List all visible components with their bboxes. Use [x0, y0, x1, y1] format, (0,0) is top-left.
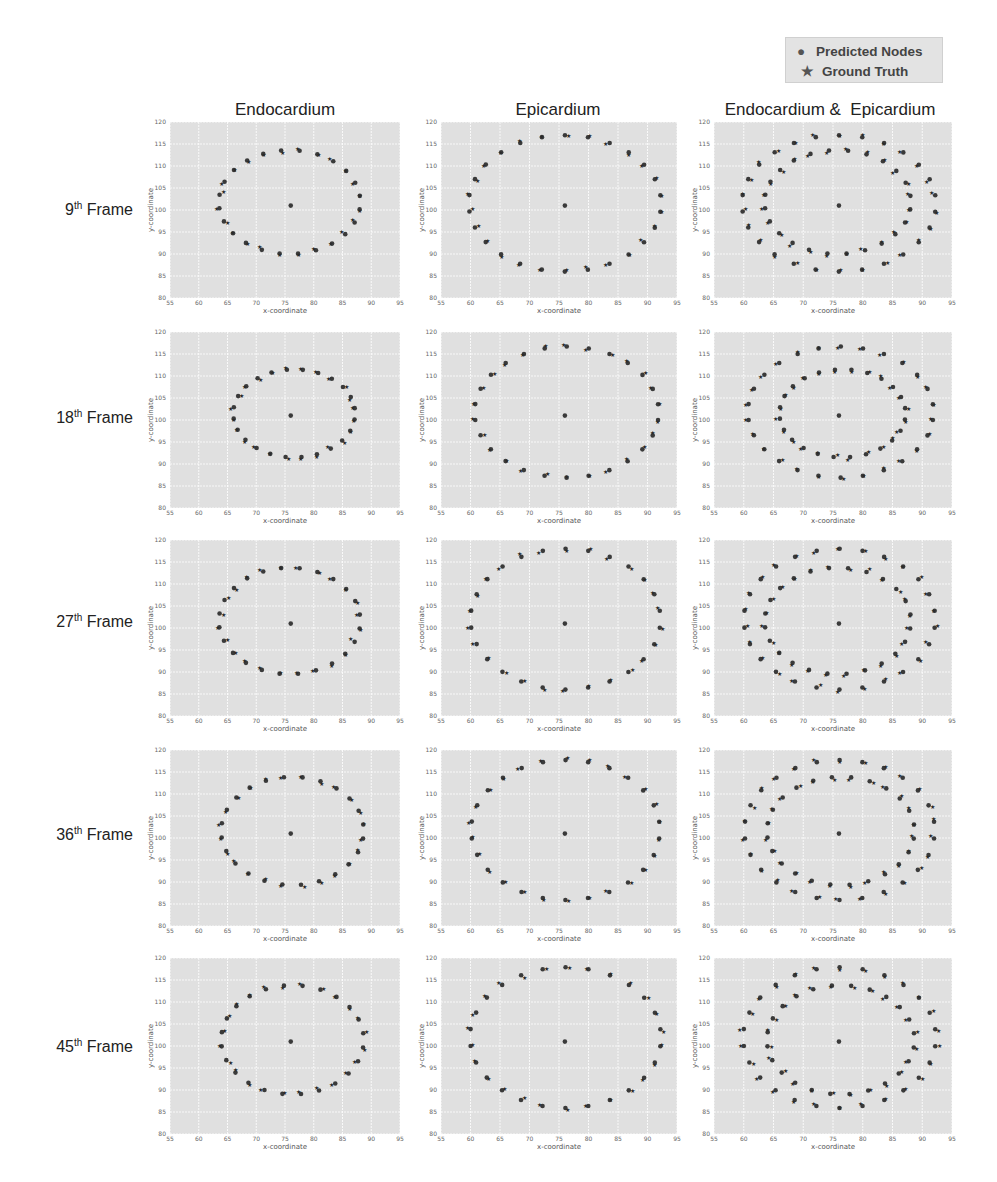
ground-truth-star: ★	[294, 670, 299, 676]
ground-truth-star: ★	[354, 612, 359, 618]
ground-truth-star: ★	[808, 249, 813, 255]
ground-truth-star: ★	[355, 1015, 360, 1021]
ground-truth-star: ★	[319, 781, 324, 787]
ground-truth-star: ★	[470, 1042, 475, 1048]
center-node	[563, 621, 568, 626]
star-marker-icon: ★	[792, 63, 822, 79]
ground-truth-star: ★	[296, 1089, 301, 1095]
ground-truth-star: ★	[473, 804, 478, 810]
ground-truth-star: ★	[901, 359, 906, 365]
ground-truth-star: ★	[267, 451, 272, 457]
x-axis-label: x-coordinate	[263, 517, 307, 525]
ground-truth-star: ★	[914, 1046, 919, 1052]
ground-truth-star: ★	[343, 652, 348, 658]
svg-text:85: 85	[702, 482, 710, 489]
ground-truth-star: ★	[603, 888, 608, 894]
ground-truth-star: ★	[890, 435, 895, 441]
ground-truth-star: ★	[915, 1029, 920, 1035]
svg-text:85: 85	[339, 299, 347, 306]
ground-truth-star: ★	[881, 465, 886, 471]
svg-text:85: 85	[429, 482, 437, 489]
svg-text:105: 105	[426, 602, 438, 609]
svg-text:105: 105	[155, 602, 167, 609]
svg-text:110: 110	[699, 580, 711, 587]
svg-text:90: 90	[644, 1135, 652, 1142]
ground-truth-star: ★	[779, 232, 784, 238]
ground-truth-star: ★	[652, 853, 657, 859]
ground-truth-star: ★	[867, 369, 872, 375]
ground-truth-star: ★	[565, 755, 570, 761]
svg-text:80: 80	[429, 712, 437, 719]
svg-text:120: 120	[426, 536, 438, 543]
svg-text:70: 70	[799, 509, 807, 516]
ground-truth-star: ★	[465, 1025, 470, 1031]
ground-truth-star: ★	[239, 393, 244, 399]
ground-truth-star: ★	[879, 577, 884, 583]
ground-truth-star: ★	[537, 1102, 542, 1108]
svg-text:75: 75	[281, 1135, 289, 1142]
ground-truth-star: ★	[221, 612, 226, 618]
y-axis-label: y-coordinate	[147, 606, 155, 650]
ground-truth-star: ★	[817, 894, 822, 900]
ground-truth-star: ★	[295, 146, 300, 152]
ground-truth-star: ★	[629, 880, 634, 886]
ground-truth-star: ★	[789, 888, 794, 894]
ground-truth-star: ★	[858, 1101, 863, 1107]
svg-text:105: 105	[426, 184, 438, 191]
ground-truth-star: ★	[761, 446, 766, 452]
ground-truth-star: ★	[776, 148, 781, 154]
svg-text:90: 90	[429, 668, 437, 675]
ground-truth-star: ★	[584, 966, 589, 972]
ground-truth-star: ★	[759, 206, 764, 212]
svg-text:55: 55	[710, 509, 718, 516]
ground-truth-star: ★	[364, 1029, 369, 1035]
ground-truth-star: ★	[896, 863, 901, 869]
ground-truth-star: ★	[877, 352, 882, 358]
ground-truth-star: ★	[790, 1081, 795, 1087]
svg-text:120: 120	[699, 328, 711, 335]
ground-truth-star: ★	[761, 192, 766, 198]
ground-truth-star: ★	[332, 994, 337, 1000]
svg-text:95: 95	[673, 717, 681, 724]
ground-truth-star: ★	[775, 877, 780, 883]
ground-truth-star: ★	[347, 861, 352, 867]
ground-truth-star: ★	[904, 625, 909, 631]
svg-text:90: 90	[158, 878, 166, 885]
svg-text:80: 80	[158, 504, 166, 511]
svg-text:120: 120	[426, 954, 438, 961]
ground-truth-star: ★	[343, 168, 348, 174]
legend-item-ground-truth: ★ Ground Truth	[792, 61, 908, 81]
svg-text:100: 100	[426, 624, 438, 631]
svg-text:70: 70	[252, 1135, 260, 1142]
center-node	[563, 413, 568, 418]
svg-text:75: 75	[555, 927, 563, 934]
ground-truth-star: ★	[861, 667, 866, 673]
ground-truth-star: ★	[759, 785, 764, 791]
ground-truth-star: ★	[626, 152, 631, 158]
svg-text:65: 65	[224, 299, 232, 306]
y-axis-label: y-coordinate	[147, 188, 155, 232]
svg-text:60: 60	[467, 1135, 475, 1142]
ground-truth-star: ★	[923, 591, 928, 597]
ground-truth-star: ★	[503, 879, 508, 885]
svg-text:115: 115	[155, 558, 167, 565]
svg-text:70: 70	[526, 717, 534, 724]
ground-truth-star: ★	[907, 613, 912, 619]
svg-text:80: 80	[310, 509, 318, 516]
svg-text:85: 85	[429, 690, 437, 697]
y-axis-label: y-coordinate	[418, 606, 426, 650]
row-label-frame-9: 9th Frame	[0, 200, 133, 219]
svg-text:55: 55	[710, 717, 718, 724]
ground-truth-star: ★	[586, 683, 591, 689]
svg-text:110: 110	[155, 372, 167, 379]
y-axis-label: y-coordinate	[147, 398, 155, 442]
ground-truth-star: ★	[780, 457, 785, 463]
ground-truth-star: ★	[916, 237, 921, 243]
ground-truth-star: ★	[882, 157, 887, 163]
svg-text:80: 80	[702, 504, 710, 511]
ground-truth-star: ★	[832, 369, 837, 375]
ground-truth-star: ★	[865, 149, 870, 155]
svg-text:90: 90	[367, 509, 375, 516]
ground-truth-star: ★	[904, 219, 909, 225]
ground-truth-star: ★	[783, 1068, 788, 1074]
